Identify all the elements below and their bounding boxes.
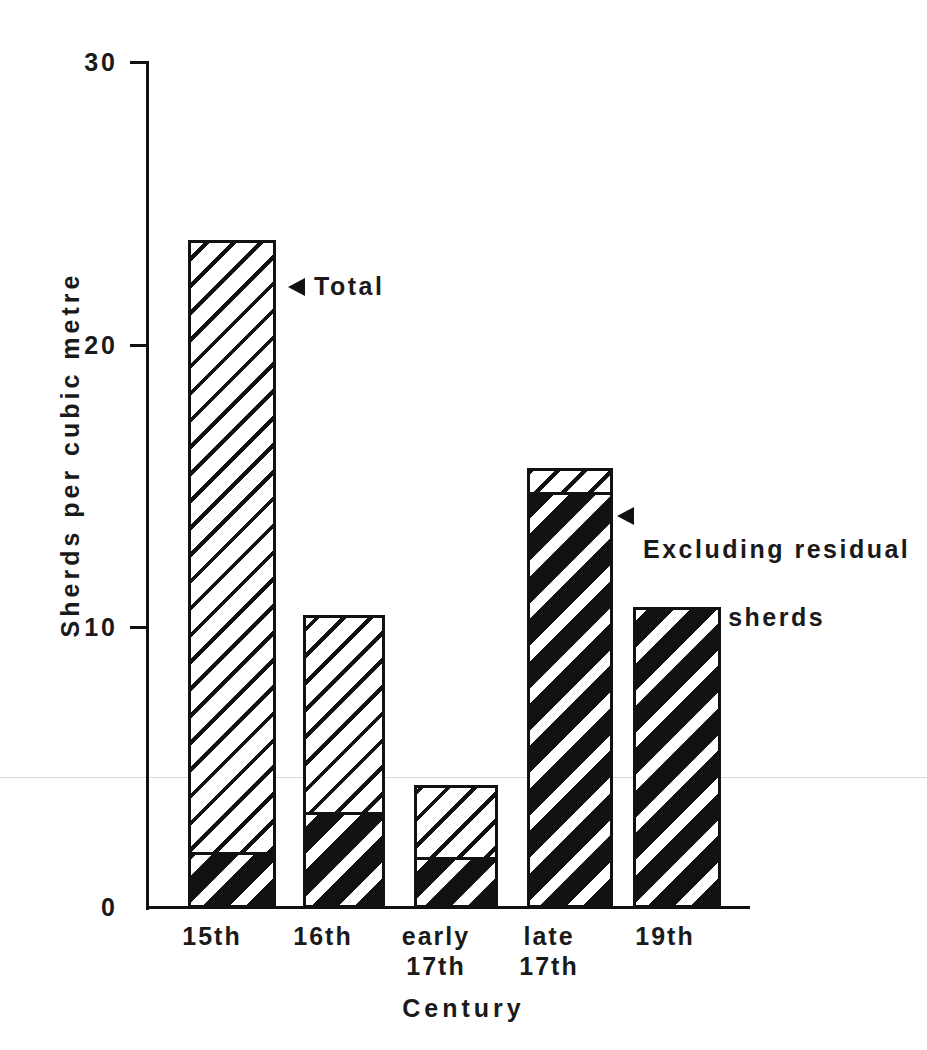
y-tick-label-0: 0 [0, 893, 118, 922]
y-tick-label-30: 30 [0, 48, 118, 77]
annotation-total: Total [288, 269, 384, 303]
x-tick-label-early-17th: early 17th [370, 921, 502, 981]
annotation-excluding-line2: sherds [643, 600, 910, 634]
y-tick-10 [130, 626, 147, 629]
bar-late-17th-excluding-residual [530, 492, 610, 905]
bar-chart-figure: 30 20 10 0 Sherds per cubic metre 15th 1… [0, 0, 927, 1050]
y-tick-30 [130, 61, 147, 64]
left-triangle-arrow-icon [288, 278, 305, 296]
bar-15th-excluding-residual [191, 852, 273, 905]
x-tick-label-late-17th: late 17th [484, 921, 614, 981]
bar-15th[interactable] [188, 240, 276, 908]
left-triangle-arrow-icon [617, 507, 634, 525]
bar-late-17th[interactable] [527, 468, 613, 908]
bar-early-17th[interactable] [414, 785, 498, 908]
x-tick-label-19th: 19th [601, 921, 729, 951]
bar-16th-excluding-residual [306, 812, 382, 905]
y-axis-title: Sherds per cubic metre [56, 205, 85, 705]
bar-early-17th-excluding-residual [417, 857, 495, 905]
x-axis-title: Century [0, 994, 927, 1023]
annotation-total-label: Total [314, 269, 384, 303]
annotation-excluding-line1: Excluding residual [643, 532, 910, 566]
y-tick-20 [130, 344, 147, 347]
x-tick-label-15th: 15th [148, 921, 276, 951]
annotation-excluding-residual-text: Excluding residual sherds [643, 498, 910, 668]
annotation-excluding-residual: Excluding residual sherds [617, 498, 910, 668]
x-tick-label-16th: 16th [259, 921, 387, 951]
plot-area [146, 62, 750, 908]
bar-16th[interactable] [303, 615, 385, 908]
